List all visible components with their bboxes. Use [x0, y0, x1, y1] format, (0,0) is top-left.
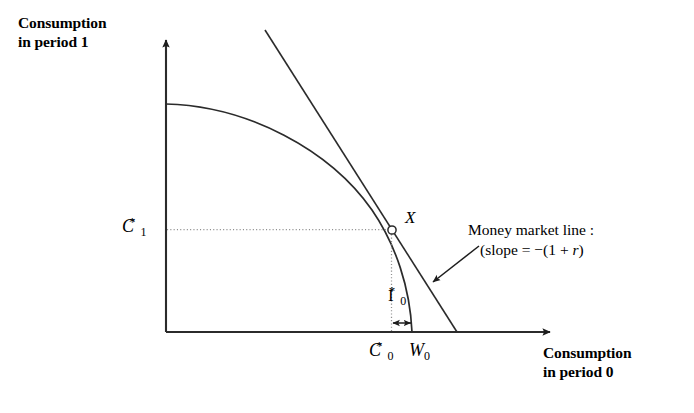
c0-subscript: 0 — [388, 349, 394, 363]
x-axis-title: Consumption in period 0 — [543, 343, 632, 381]
x-axis-title-line2: in period 0 — [543, 363, 613, 380]
y-axis-tick-label-c1-star: C*1 — [122, 216, 147, 237]
c0-superscript-star: * — [376, 338, 383, 353]
production-possibility-frontier-curve — [166, 104, 412, 332]
y-axis-title-line1: Consumption — [18, 14, 107, 31]
w0-variable: W — [409, 340, 424, 360]
tangency-point-marker — [388, 226, 396, 234]
x-axis-tick-label-w0: W0 — [409, 340, 430, 361]
figure-canvas: Consumption in period 1 Consumption in p… — [0, 0, 694, 413]
investment-label-i0-star: I*0 — [388, 286, 406, 306]
callout-line-2: (slope = −(1 + r) — [468, 240, 594, 260]
money-market-line-callout: Money market line : (slope = −(1 + r) — [468, 220, 594, 260]
c1-subscript: 1 — [141, 225, 147, 239]
w0-subscript: 0 — [424, 349, 430, 363]
money-market-line — [265, 30, 457, 332]
x-axis-tick-label-c0-star: C*0 — [369, 340, 394, 361]
tangency-point-label: X — [405, 208, 415, 228]
y-axis-title-line2: in period 1 — [18, 33, 88, 50]
i0-superscript-star: * — [389, 283, 396, 298]
c1-superscript-star: * — [129, 214, 136, 229]
i0-subscript: 0 — [400, 294, 406, 308]
callout-slope-prefix: (slope = −(1 + — [480, 241, 573, 258]
callout-slope-suffix: ) — [579, 241, 584, 258]
y-axis-title: Consumption in period 1 — [18, 13, 107, 51]
x-axis-title-line1: Consumption — [543, 344, 632, 361]
callout-line-1: Money market line : — [468, 221, 594, 238]
